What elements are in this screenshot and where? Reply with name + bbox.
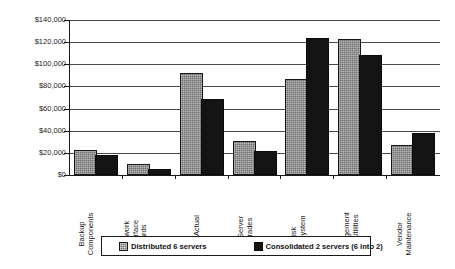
bar: [233, 141, 256, 175]
x-axis-tick-label: VendorMaintenance: [386, 178, 440, 234]
x-axis-tick-label: NetworkInterfaceCards: [121, 178, 175, 234]
chart-legend: Distributed 6 serversConsolidated 2 serv…: [101, 236, 371, 256]
bar-group: [386, 20, 439, 175]
y-axis-tick-label: $0: [4, 171, 66, 179]
solid-black-swatch: [254, 242, 263, 251]
bar-group: [228, 20, 281, 175]
y-axis-tick-label: $60,000: [4, 105, 66, 113]
y-axis-tick-label: $20,000: [4, 149, 66, 157]
bar-group: [280, 20, 333, 175]
legend-entry: Consolidated 2 servers (6 into 2): [254, 242, 383, 251]
bar: [391, 145, 414, 175]
y-axis-tick-label: $100,000: [4, 60, 66, 68]
bar: [74, 150, 97, 175]
bar: [127, 164, 150, 175]
bar: [95, 155, 118, 175]
y-axis-tick-label: $140,000: [4, 16, 66, 24]
legend-label: Distributed 6 servers: [131, 242, 207, 251]
y-axis-tick-label: $80,000: [4, 82, 66, 90]
bar-chart: $140,000$120,000$100,000$80,000$60,000$4…: [0, 0, 455, 269]
bar-group: [175, 20, 228, 175]
bar: [180, 73, 203, 175]
y-axis: $140,000$120,000$100,000$80,000$60,000$4…: [0, 20, 66, 175]
bar: [201, 99, 224, 175]
bar: [254, 151, 277, 175]
x-axis: BackupComponentsNetworkInterfaceCardsNOS…: [69, 178, 439, 236]
y-axis-tick-label: $40,000: [4, 127, 66, 135]
bar: [338, 39, 361, 175]
bar: [412, 133, 435, 175]
x-axis-tick-label: File ServerUpgrades: [227, 178, 281, 234]
x-axis-tick-label: DiskSubsystem: [280, 178, 334, 234]
legend-entry: Distributed 6 servers: [119, 242, 207, 251]
bar: [359, 55, 382, 175]
x-axis-tick-label: Managementand Utilities: [333, 178, 387, 234]
bar: [285, 79, 308, 175]
x-axis-tick-label: NOS Actual: [174, 178, 228, 234]
hatched-gray-swatch: [119, 242, 128, 251]
bar: [306, 38, 329, 175]
x-axis-tick-label: BackupComponents: [68, 178, 122, 234]
bar-group: [69, 20, 122, 175]
bar: [148, 169, 171, 175]
legend-label: Consolidated 2 servers (6 into 2): [266, 242, 383, 251]
bar-group: [122, 20, 175, 175]
y-axis-tick-label: $120,000: [4, 38, 66, 46]
bars-layer: [69, 20, 439, 175]
bar-group: [333, 20, 386, 175]
